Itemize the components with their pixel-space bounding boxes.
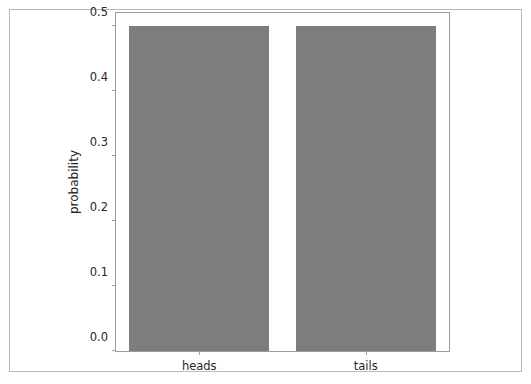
x-axis-tick-label: tails bbox=[354, 359, 378, 373]
bar bbox=[296, 26, 436, 351]
y-axis-label: probability bbox=[66, 12, 82, 352]
bar bbox=[129, 26, 269, 351]
x-axis-tick-label: heads bbox=[182, 359, 217, 373]
y-axis-tick-label: 0.1 bbox=[90, 265, 108, 279]
y-axis-tick-label: 0.4 bbox=[90, 70, 108, 84]
x-axis-tick bbox=[366, 351, 367, 355]
y-axis-tick-label: 0.3 bbox=[90, 135, 108, 149]
y-axis-tick-label: 0.0 bbox=[90, 330, 108, 344]
plot-axes: 0.00.10.20.30.40.5 headstails bbox=[115, 12, 450, 352]
x-axis-tick bbox=[199, 351, 200, 355]
y-axis-label-text: probability bbox=[67, 150, 81, 214]
y-axis-tick-label: 0.5 bbox=[90, 5, 108, 19]
plot-area bbox=[116, 13, 449, 351]
y-axis-tick-label: 0.2 bbox=[90, 200, 108, 214]
figure-canvas: probability 0.00.10.20.30.40.5 headstail… bbox=[0, 0, 531, 384]
